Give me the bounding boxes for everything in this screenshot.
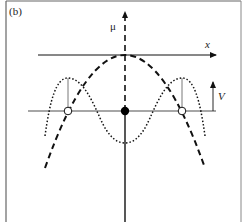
v-label: V bbox=[218, 90, 226, 102]
diagram-panel: (b) μ x V bbox=[0, 0, 246, 222]
left-open-point bbox=[64, 107, 72, 115]
center-filled-point bbox=[121, 107, 129, 115]
mu-label: μ bbox=[110, 20, 116, 32]
panel-label: (b) bbox=[9, 5, 22, 18]
right-open-point bbox=[178, 107, 186, 115]
x-label: x bbox=[204, 38, 210, 50]
